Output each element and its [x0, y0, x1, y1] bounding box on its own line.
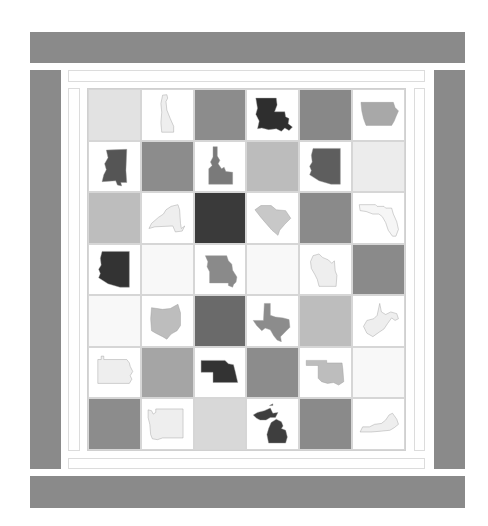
- nebraska-icon: [198, 351, 242, 394]
- oklahoma-icon: [304, 351, 348, 394]
- tile-blank: [141, 244, 194, 296]
- tile-blank: [352, 141, 405, 193]
- tile-blank: [194, 398, 247, 450]
- tile-south-carolina: [246, 192, 299, 244]
- tile-blank: [352, 244, 405, 296]
- tile-missouri: [194, 244, 247, 296]
- ohio-icon: [145, 300, 189, 343]
- tile-texas: [246, 295, 299, 347]
- tile-blank: [88, 192, 141, 244]
- tile-delaware: [141, 89, 194, 141]
- tile-blank: [352, 347, 405, 399]
- tile-ohio: [141, 295, 194, 347]
- tile-idaho: [194, 141, 247, 193]
- bottom-frame-bar: [30, 476, 465, 508]
- west-virginia-icon: [357, 300, 401, 343]
- inner-bottom-strip: [68, 458, 425, 469]
- tile-blank: [194, 295, 247, 347]
- pennsylvania-icon: [93, 351, 137, 394]
- tile-blank: [299, 295, 352, 347]
- tile-wisconsin: [299, 244, 352, 296]
- tile-blank: [88, 89, 141, 141]
- tile-florida: [352, 192, 405, 244]
- tile-washington: [141, 398, 194, 450]
- michigan-icon: [251, 403, 295, 446]
- tile-pennsylvania: [88, 347, 141, 399]
- south-carolina-icon: [251, 197, 295, 240]
- tile-nebraska: [194, 347, 247, 399]
- tile-blank: [141, 347, 194, 399]
- tile-blank: [88, 295, 141, 347]
- inner-right-strip: [414, 88, 425, 451]
- wisconsin-icon: [304, 248, 348, 291]
- right-frame-bar: [434, 70, 465, 469]
- tile-arizona: [299, 141, 352, 193]
- inner-left-strip: [68, 88, 80, 451]
- tile-blank: [246, 141, 299, 193]
- tile-new-york: [141, 192, 194, 244]
- tile-blank: [299, 89, 352, 141]
- louisiana-icon: [251, 93, 295, 136]
- tile-blank: [194, 192, 247, 244]
- arizona-icon: [93, 248, 137, 291]
- tile-blank: [246, 244, 299, 296]
- tile-blank: [299, 192, 352, 244]
- tile-iowa: [352, 89, 405, 141]
- top-frame-bar: [30, 32, 465, 63]
- inner-top-strip: [68, 70, 425, 82]
- tile-blank: [88, 398, 141, 450]
- tile-west-virginia: [352, 295, 405, 347]
- tile-blank: [246, 347, 299, 399]
- tile-mississippi: [88, 141, 141, 193]
- tile-blank: [141, 141, 194, 193]
- iowa-icon: [357, 93, 401, 136]
- left-frame-bar: [30, 70, 61, 469]
- tile-blank: [299, 398, 352, 450]
- idaho-icon: [198, 145, 242, 188]
- mississippi-icon: [93, 145, 137, 188]
- tile-kentucky: [352, 398, 405, 450]
- arizona-icon: [304, 145, 348, 188]
- florida-icon: [357, 197, 401, 240]
- delaware-icon: [145, 93, 189, 136]
- missouri-icon: [198, 248, 242, 291]
- tile-oklahoma: [299, 347, 352, 399]
- tile-louisiana: [246, 89, 299, 141]
- tile-michigan: [246, 398, 299, 450]
- new-york-icon: [145, 197, 189, 240]
- texas-icon: [251, 300, 295, 343]
- tile-blank: [194, 89, 247, 141]
- kentucky-icon: [357, 403, 401, 446]
- tile-arizona: [88, 244, 141, 296]
- washington-icon: [145, 403, 189, 446]
- state-tile-grid: [87, 88, 406, 451]
